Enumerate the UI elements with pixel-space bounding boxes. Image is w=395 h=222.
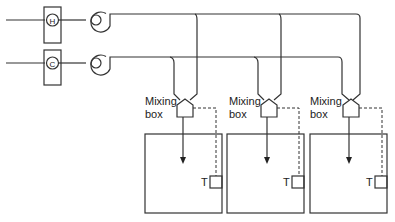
thermostat-label: T xyxy=(201,176,208,188)
thermostat-icon xyxy=(375,176,387,188)
mixing-box-label-1b: box xyxy=(145,108,163,120)
arrow-down-icon xyxy=(264,157,270,164)
zone-2: Mixing box T xyxy=(227,95,304,213)
cold-supply-path: C xyxy=(6,50,349,100)
room-2 xyxy=(227,134,304,213)
hot-supply-path: H xyxy=(6,7,360,100)
cold-supply-fan-icon xyxy=(91,55,116,75)
dual-duct-diagram: H C Mixing box T xyxy=(0,0,395,222)
thermostat-label: T xyxy=(283,176,290,188)
mixing-box-icon xyxy=(343,99,359,117)
mixing-box-label-2b: box xyxy=(229,108,247,120)
mixing-box-icon xyxy=(261,99,277,117)
zone-1: Mixing box T xyxy=(145,95,222,213)
mixing-box-label-3b: box xyxy=(310,108,328,120)
thermostat-label: T xyxy=(366,176,373,188)
mixing-box-label-1: Mixing xyxy=(145,95,177,107)
mixing-box-icon xyxy=(177,99,193,117)
thermostat-icon xyxy=(210,176,222,188)
zone-3: Mixing box T xyxy=(310,95,387,213)
thermostat-icon xyxy=(292,176,304,188)
hot-supply-fan-icon xyxy=(91,12,116,32)
cooling-coil-label: C xyxy=(50,60,56,69)
arrow-down-icon xyxy=(346,157,352,164)
mixing-box-label-2: Mixing xyxy=(229,95,261,107)
mixing-box-label-3: Mixing xyxy=(310,95,342,107)
heating-coil-label: H xyxy=(50,17,56,26)
arrow-down-icon xyxy=(180,157,186,164)
